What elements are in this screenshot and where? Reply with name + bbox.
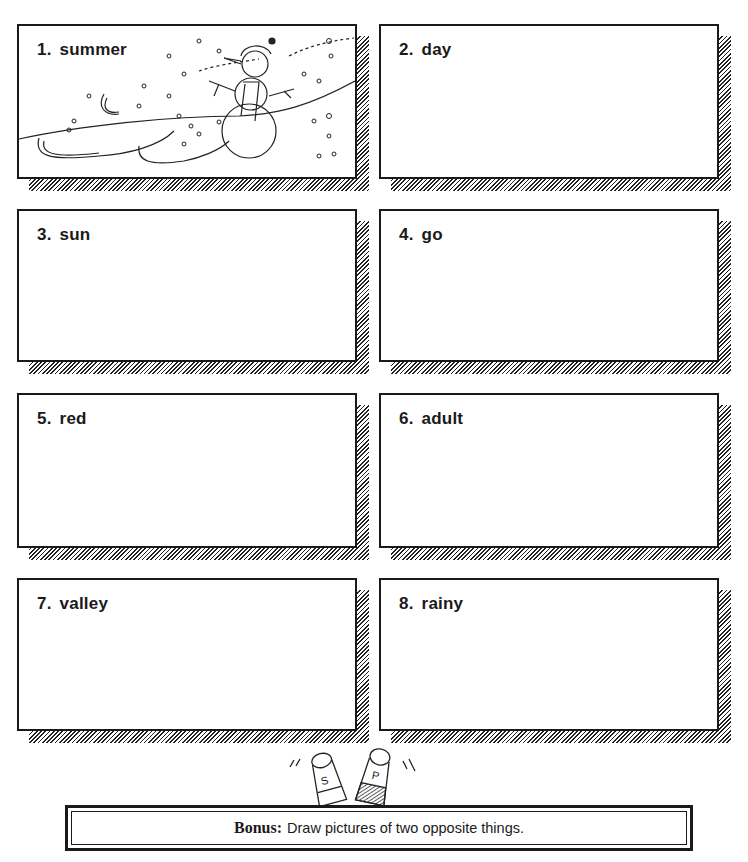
drawing-area-5[interactable]: 5.red (17, 393, 357, 548)
item-card-4: 4.go (379, 209, 719, 362)
bonus-text: Draw pictures of two opposite things. (287, 820, 524, 836)
drawing-area-8[interactable]: 8.rainy (379, 578, 719, 731)
item-word: valley (60, 594, 108, 613)
item-card-3: 3.sun (17, 209, 357, 362)
svg-text:P: P (371, 769, 381, 782)
bonus-box: Bonus: Draw pictures of two opposite thi… (65, 805, 693, 851)
item-card-6: 6.adult (379, 393, 719, 548)
item-word: summer (60, 40, 127, 59)
item-word: red (60, 409, 87, 428)
item-label-3: 3.sun (37, 225, 90, 245)
bonus-instruction: Bonus: Draw pictures of two opposite thi… (71, 811, 687, 845)
item-label-6: 6.adult (399, 409, 463, 429)
item-label-2: 2.day (399, 40, 451, 60)
item-label-8: 8.rainy (399, 594, 463, 614)
item-word: go (422, 225, 443, 244)
item-label-1: 1.summer (37, 40, 127, 60)
drawing-area-2[interactable]: 2.day (379, 24, 719, 179)
item-card-7: 7.valley (17, 578, 357, 731)
item-card-2: 2.day (379, 24, 719, 179)
drawing-area-7[interactable]: 7.valley (17, 578, 357, 731)
item-word: rainy (422, 594, 464, 613)
item-word: sun (60, 225, 91, 244)
drawing-area-3[interactable]: 3.sun (17, 209, 357, 362)
item-card-1: 1.summer (17, 24, 357, 179)
drawing-area-1[interactable]: 1.summer (17, 24, 357, 179)
svg-text:S: S (319, 774, 329, 787)
item-card-5: 5.red (17, 393, 357, 548)
drawing-area-4[interactable]: 4.go (379, 209, 719, 362)
item-word: adult (422, 409, 464, 428)
item-card-8: 8.rainy (379, 578, 719, 731)
item-word: day (422, 40, 452, 59)
drawing-area-6[interactable]: 6.adult (379, 393, 719, 548)
bonus-label: Bonus: (234, 819, 282, 837)
item-label-7: 7.valley (37, 594, 108, 614)
item-label-5: 5.red (37, 409, 87, 429)
item-label-4: 4.go (399, 225, 443, 245)
salt-pepper-shakers-icon: S P (285, 745, 425, 807)
